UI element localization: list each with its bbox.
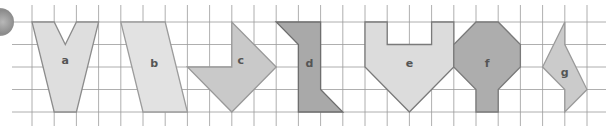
shape-label: c xyxy=(237,54,244,67)
grid-canvas: abcdefg xyxy=(0,0,609,131)
shape-c: c xyxy=(187,22,276,112)
shape-label: e xyxy=(406,57,413,70)
shapes-diagram: abcdefg xyxy=(0,0,609,131)
shape-label: f xyxy=(485,57,490,70)
shape-label: d xyxy=(306,57,314,70)
shape-c-polygon xyxy=(187,22,276,112)
shape-label: a xyxy=(62,54,69,67)
shape-f: f xyxy=(454,22,521,112)
shape-label: b xyxy=(150,57,158,70)
shape-label: g xyxy=(561,66,569,79)
